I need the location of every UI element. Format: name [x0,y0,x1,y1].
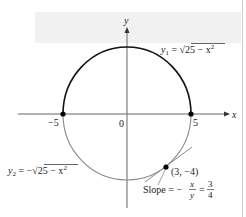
y-axis-label: y [123,15,129,26]
x-axis-label: x [231,109,237,120]
slope-equals: = [199,184,205,195]
point-3-neg4 [163,164,168,169]
y-axis-arrow-icon [125,27,130,33]
circle-implicit-diff-figure: y x 0 −5 5 y1 = √25 − x2 y2 = −√25 − x2 … [0,0,246,217]
origin-label: 0 [119,118,124,129]
point-5-0 [188,111,193,116]
slope-frac1-den: y [189,190,194,200]
slope-label-prefix: Slope = − [143,184,182,195]
slope-frac2-num: 3 [208,179,213,189]
y1-equation-label: y1 = √25 − x2 [160,43,215,57]
tick-label-neg5: −5 [48,117,59,128]
slope-frac2-den: 4 [208,190,213,200]
point-label: (3, −4) [171,166,198,178]
tick-label-5: 5 [193,117,198,128]
x-axis-arrow-icon [224,112,230,117]
point-neg5-0 [60,111,65,116]
slope-pointer-line [158,168,166,185]
y2-equation-label: y2 = −√25 − x2 [7,164,67,178]
slope-frac1-num: x [189,179,194,189]
